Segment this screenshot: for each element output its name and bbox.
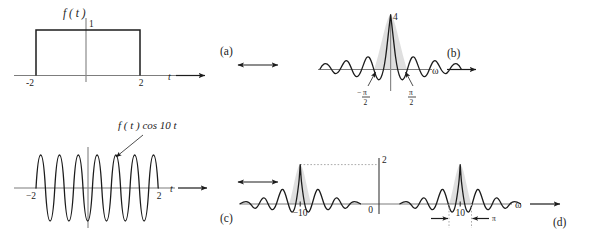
panel-d-width-annotation-label: π — [492, 214, 496, 223]
panel-d-x-axis-label: ω — [515, 199, 522, 210]
panel-c-xtick-left: −2 — [26, 191, 36, 201]
panel-a-signal-label: f ( t ) — [63, 7, 86, 20]
panel-b-xtick-left: − π 2 — [357, 88, 370, 107]
panel-b-x-axis-label: ω — [432, 65, 439, 76]
panel-b-xtick-left-sign: − — [357, 88, 361, 97]
panel-d-tag: (d) — [553, 216, 567, 229]
panel-b-xtick-right-denominator: 2 — [410, 98, 414, 107]
panel-a: f ( t ) 1 -2 2 t (a) — [14, 7, 233, 88]
panel-b-xtick-right-numerator: π — [409, 88, 413, 97]
panel-b: 4 − π 2 π 2 ω (b) — [318, 12, 476, 107]
panel-b-xtick-left-numerator: π — [363, 88, 367, 97]
fourier-transform-figure: f ( t ) 1 -2 2 t (a) 4 — [0, 0, 594, 233]
panel-a-xtick-right: 2 — [139, 78, 144, 88]
panel-d-peak-label: 2 — [382, 155, 387, 165]
panel-d-xtick-right: 10 — [455, 208, 465, 218]
panel-a-rect-pulse-curve — [36, 30, 140, 76]
panel-c-tag: (c) — [220, 212, 233, 225]
panel-b-tag: (b) — [447, 47, 461, 60]
panel-c-xtick-right: 2 — [157, 191, 162, 201]
panel-b-peak-label: 4 — [393, 12, 398, 22]
panel-d: π 2 0 −10 10 ω (d) — [240, 155, 567, 229]
panel-b-xtick-right: π 2 — [408, 88, 416, 107]
panel-a-amplitude-label: 1 — [89, 19, 94, 29]
figure-container: f ( t ) 1 -2 2 t (a) 4 — [0, 0, 594, 233]
panel-a-xtick-left: -2 — [26, 78, 34, 88]
panel-a-x-axis-label: t — [168, 71, 171, 82]
panel-c: f ( t ) cos 10 t −2 2 t (c) — [14, 119, 233, 228]
panel-d-origin-label: 0 — [368, 205, 373, 215]
panel-b-left-zero-leader-icon — [368, 72, 376, 86]
panel-c-signal-label: f ( t ) cos 10 t — [118, 119, 178, 132]
panel-c-annotation-leader-icon — [116, 135, 143, 157]
panel-b-right-zero-leader-icon — [406, 72, 413, 86]
panel-b-xtick-left-denominator: 2 — [364, 98, 368, 107]
panel-a-tag: (a) — [220, 45, 233, 58]
panel-d-xtick-left: −10 — [293, 208, 308, 218]
panel-c-x-axis-label: t — [170, 183, 173, 194]
